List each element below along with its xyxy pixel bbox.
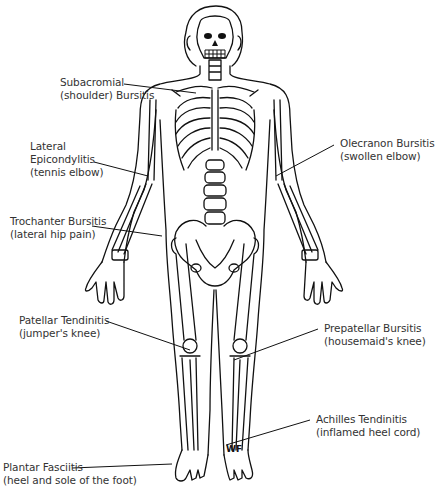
label-line: (inflamed heel cord) (316, 426, 420, 439)
leg-bones (172, 238, 259, 450)
artist-signature: WF (226, 444, 242, 454)
label-line: (swollen elbow) (340, 150, 435, 163)
spine (204, 60, 226, 224)
pointer-lines (72, 84, 334, 468)
label-line: (heel and sole of the foot) (3, 474, 137, 487)
label-line: Prepatellar Bursitis (324, 322, 426, 335)
skull (197, 16, 233, 58)
label-line: (lateral hip pain) (10, 228, 106, 241)
ribcage (175, 90, 254, 170)
label-plantar: Plantar Fasciitis (heel and sole of the … (3, 461, 137, 487)
label-line: Lateral (30, 140, 103, 153)
label-line: Plantar Fasciitis (3, 461, 137, 474)
label-subacromial: Subacromial (shoulder) Bursitis (60, 76, 154, 102)
label-achilles: Achilles Tendinitis (inflamed heel cord) (316, 413, 420, 439)
label-line: Patellar Tendinitis (19, 314, 109, 327)
label-line: Subacromial (60, 76, 154, 89)
label-line: (shoulder) Bursitis (60, 89, 154, 102)
label-prepatellar: Prepatellar Bursitis (housemaid's knee) (324, 322, 426, 348)
arm-bones (112, 100, 318, 260)
label-patellar: Patellar Tendinitis (jumper's knee) (19, 314, 109, 340)
label-trochanter: Trochanter Bursitis (lateral hip pain) (10, 215, 106, 241)
label-olecranon: Olecranon Bursitis (swollen elbow) (340, 137, 435, 163)
label-line: (housemaid's knee) (324, 335, 426, 348)
label-line: Olecranon Bursitis (340, 137, 435, 150)
label-lateral-epicondylitis: Lateral Epicondylitis (tennis elbow) (30, 140, 103, 179)
label-line: (jumper's knee) (19, 327, 109, 340)
label-line: (tennis elbow) (30, 166, 103, 179)
label-line: Trochanter Bursitis (10, 215, 106, 228)
label-line: Epicondylitis (30, 153, 103, 166)
label-line: Achilles Tendinitis (316, 413, 420, 426)
